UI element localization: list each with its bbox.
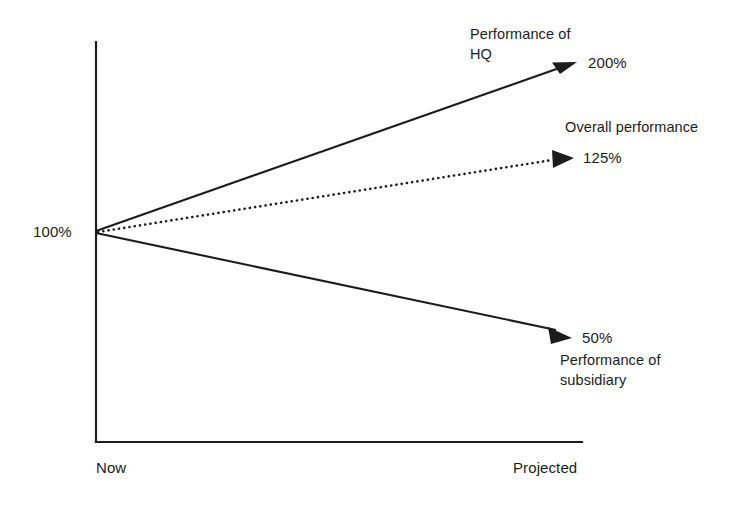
series-label-performance-of-hq: Performance ofHQ	[470, 24, 571, 64]
performance-projection-chart: 100% Performance ofHQ 200% Overall perfo…	[0, 0, 750, 512]
series-line-subsidiary	[96, 233, 556, 330]
series-label-hq-line2: HQ	[470, 46, 492, 62]
series-performance-of-hq	[96, 62, 577, 231]
series-overall-performance	[98, 150, 574, 232]
series-label-performance-of-subsidiary: Performance ofsubsidiary	[560, 350, 661, 390]
x-axis-label-now: Now	[96, 458, 126, 478]
x-axis-label-projected: Projected	[513, 458, 577, 478]
series-label-hq-line1: Performance of	[470, 26, 571, 42]
y-axis-origin-label: 100%	[33, 222, 72, 242]
series-line-overall	[98, 160, 552, 232]
series-value-performance-of-hq: 200%	[588, 53, 627, 73]
series-performance-of-subsidiary	[96, 233, 572, 344]
arrow-head-overall	[552, 150, 574, 168]
series-value-performance-of-subsidiary: 50%	[582, 328, 612, 348]
series-label-subsidiary-line1: Performance of	[560, 352, 661, 368]
chart-canvas	[0, 0, 750, 512]
series-value-overall-performance: 125%	[583, 148, 622, 168]
series-label-subsidiary-line2: subsidiary	[560, 372, 626, 388]
series-line-hq	[96, 66, 565, 231]
series-label-overall-performance: Overall performance	[565, 117, 698, 137]
arrow-head-subsidiary	[548, 327, 572, 344]
